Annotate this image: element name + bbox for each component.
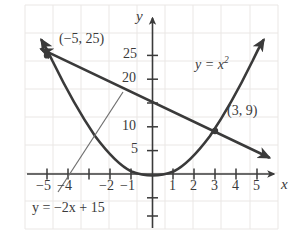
- y-tick-label-5: 5: [131, 141, 138, 157]
- x-tick-label-minus2: −2: [99, 178, 114, 194]
- x-tick-label-1: 1: [169, 178, 176, 194]
- axis-lines: [27, 18, 274, 228]
- graph-figure: y x (−5, 25) (3, 9) y = x2 y = −2x + 15 …: [0, 0, 303, 235]
- x-tick-label-5: 5: [253, 178, 260, 194]
- parabola-equation-label: y = x2: [195, 55, 229, 73]
- y-tick-label-25: 25: [123, 46, 137, 62]
- y-tick-label-20: 20: [122, 70, 136, 86]
- x-axis-label: x: [281, 176, 288, 193]
- parabola-exponent: 2: [224, 55, 229, 65]
- point-label-minus5-25: (−5, 25): [59, 31, 104, 47]
- x-tick-label-minus4: −4: [57, 178, 72, 194]
- x-tick-label-2: 2: [190, 178, 197, 194]
- point-marker-minus5-25: [44, 52, 50, 58]
- point-marker-3-9: [212, 128, 218, 134]
- y-tick-label-10: 10: [122, 118, 136, 134]
- line-label-leader: [58, 92, 123, 192]
- line-equation-label: y = −2x + 15: [32, 200, 105, 216]
- y-axis-label: y: [136, 8, 143, 25]
- x-tick-label-minus1: −1: [120, 178, 135, 194]
- x-tick-label-minus5: −5: [36, 178, 51, 194]
- x-tick-label-4: 4: [232, 178, 239, 194]
- point-label-3-9: (3, 9): [227, 103, 257, 119]
- x-tick-label-3: 3: [211, 178, 218, 194]
- parabola-equation-text: y = x: [195, 57, 224, 72]
